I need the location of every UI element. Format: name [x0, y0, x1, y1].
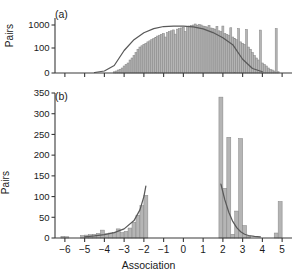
panel-a-bar	[196, 25, 198, 73]
panel-a-bar	[176, 29, 178, 73]
panel-a-bar	[173, 30, 175, 73]
panel-a-bar	[157, 36, 159, 73]
panel-a-y-tick-label: 0	[44, 67, 49, 78]
panel-a-bar	[265, 66, 267, 73]
panel-a-bar	[137, 49, 139, 73]
panel-a-bar	[135, 53, 137, 74]
panel-a-bar	[129, 60, 131, 73]
panel-a-bar	[232, 37, 234, 73]
plot-canvas: 01001000 050100150200250300350−6−5−4−3−2…	[0, 0, 297, 279]
panel-b-y-tick-label: 250	[34, 129, 50, 140]
x-tick-label: −3	[118, 244, 130, 255]
panel-a-bar	[123, 66, 125, 73]
x-tick-label: 5	[279, 244, 285, 255]
panel-b-y-tick-label: 300	[34, 108, 50, 119]
panel-b-bar	[219, 97, 223, 238]
panel-b-bar	[231, 234, 235, 238]
panel-a-bar	[236, 40, 238, 73]
panel-b-bar	[140, 206, 144, 238]
panel-a-bar	[244, 44, 246, 73]
panel-b-bar	[239, 139, 243, 238]
panel-b-bar	[120, 233, 124, 238]
x-tick-label: −1	[158, 244, 170, 255]
panel-b-bar	[274, 233, 278, 238]
x-tick-label: −6	[59, 244, 71, 255]
panel-a-bar	[252, 53, 254, 74]
panel-a-bar	[159, 35, 161, 73]
x-tick-label: −4	[99, 244, 111, 255]
panel-a-bar	[125, 65, 127, 74]
panel-a-bar	[204, 27, 206, 73]
panel-b-bar	[128, 228, 132, 238]
panel-a-bar	[149, 41, 151, 73]
panel-b-y-tick-label: 200	[34, 149, 50, 160]
panel-b-bar	[278, 202, 282, 238]
panel-a-bar	[165, 37, 167, 73]
panel-b-y-tick-label: 100	[34, 191, 50, 202]
panel-a-bar	[161, 34, 163, 73]
panel-a-bar	[141, 46, 143, 73]
panel-a: 01001000	[28, 18, 292, 78]
panel-a-bar	[163, 33, 165, 73]
panel-b-y-tick-label: 350	[34, 87, 50, 98]
figure-root: Pairs Pairs (a) (b) Association 01001000…	[0, 0, 297, 279]
panel-a-bar	[230, 28, 232, 73]
panel-b-bar	[243, 226, 247, 238]
panel-b-y-tick-label: 50	[39, 212, 50, 223]
panel-b-bar	[136, 215, 140, 238]
panel-b-bar	[144, 195, 148, 238]
panel-b-bar	[124, 231, 128, 238]
panel-a-bar	[121, 68, 123, 73]
panel-a-bar	[216, 26, 218, 73]
panel-a-y-tick-label: 100	[34, 42, 50, 53]
panel-a-bar	[206, 27, 208, 73]
panel-a-bar	[238, 29, 240, 73]
panel-a-bar	[250, 49, 252, 73]
panel-a-bar	[234, 38, 236, 73]
panel-a-bar	[127, 63, 129, 73]
panel-b-bar	[132, 222, 136, 238]
panel-a-bar	[131, 58, 133, 73]
panel-b-tag: (b)	[55, 90, 68, 102]
panel-a-bar	[190, 26, 192, 73]
panel-a-bar	[214, 29, 216, 73]
x-tick-label: 2	[220, 244, 226, 255]
panel-a-y-axis-label: Pairs	[4, 13, 15, 59]
panel-a-bar	[220, 32, 222, 73]
panel-a-bar	[143, 44, 145, 73]
panel-a-bar	[198, 25, 200, 74]
panel-b-y-tick-label: 150	[34, 170, 50, 181]
panel-a-bar	[119, 69, 121, 73]
panel-a-bar	[169, 32, 171, 73]
panel-a-bar	[186, 27, 188, 73]
panel-a-bar	[153, 38, 155, 73]
x-tick-label: 4	[260, 244, 266, 255]
panel-a-bar	[155, 37, 157, 73]
panel-a-bar	[182, 27, 184, 73]
panel-a-bar	[222, 26, 224, 73]
panel-a-bar	[171, 31, 173, 73]
panel-a-bar	[263, 65, 265, 74]
panel-a-bar	[139, 47, 141, 73]
panel-a-tag: (a)	[55, 8, 68, 20]
panel-a-bar	[180, 28, 182, 73]
panel-a-bar	[188, 26, 190, 73]
panel-a-bar	[167, 33, 169, 73]
panel-a-bar	[269, 69, 271, 73]
panel-a-bar	[174, 34, 176, 73]
panel-b-bar	[100, 230, 104, 238]
x-tick-label: 3	[240, 244, 246, 255]
panel-a-bar	[255, 58, 257, 73]
panel-a-bar	[145, 43, 147, 73]
panel-b-bar	[227, 137, 231, 238]
panel-b-y-tick-label: 0	[44, 232, 49, 243]
panel-a-bar	[246, 29, 248, 73]
panel-a-bar	[202, 26, 204, 73]
panel-a-bar	[192, 25, 194, 73]
panel-b-y-axis-label: Pairs	[0, 160, 11, 206]
panel-b: 050100150200250300350−6−5−4−3−2−1012345	[34, 87, 292, 255]
panel-a-bar	[248, 47, 250, 73]
x-tick-label: −5	[79, 244, 91, 255]
panel-a-bar	[200, 25, 202, 73]
panel-a-bar	[178, 29, 180, 73]
